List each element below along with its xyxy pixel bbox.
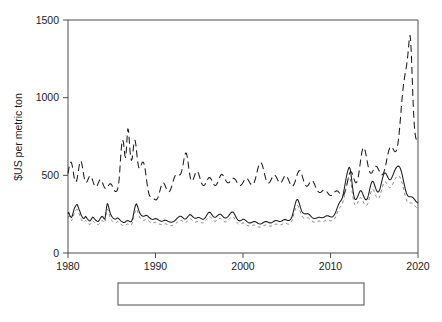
series-line-soy: [68, 166, 418, 224]
legend-border: [118, 283, 364, 305]
y-tick-label: 1500: [36, 14, 60, 26]
y-axis-title: $US per metric ton: [12, 93, 24, 181]
y-tick-label: 0: [53, 247, 59, 259]
x-tick-label: 1990: [144, 260, 168, 272]
y-tick-label: 1000: [36, 91, 60, 103]
chart-canvas: 050010001500 19801990200020102020 $US pe…: [0, 0, 442, 322]
x-axis: 19801990200020102020: [56, 253, 430, 272]
y-tick-label: 500: [41, 169, 59, 181]
y-axis: 050010001500: [36, 14, 68, 259]
x-tick-label: 2000: [231, 260, 255, 272]
data-series-group: [68, 35, 418, 227]
plot-frame: [68, 20, 418, 253]
chart-figure: 050010001500 19801990200020102020 $US pe…: [0, 0, 442, 322]
chart-legend: [118, 283, 364, 305]
x-tick-label: 2010: [319, 260, 343, 272]
series-line-oil: [68, 35, 418, 200]
x-tick-label: 2020: [406, 260, 430, 272]
x-tick-label: 1980: [56, 260, 80, 272]
